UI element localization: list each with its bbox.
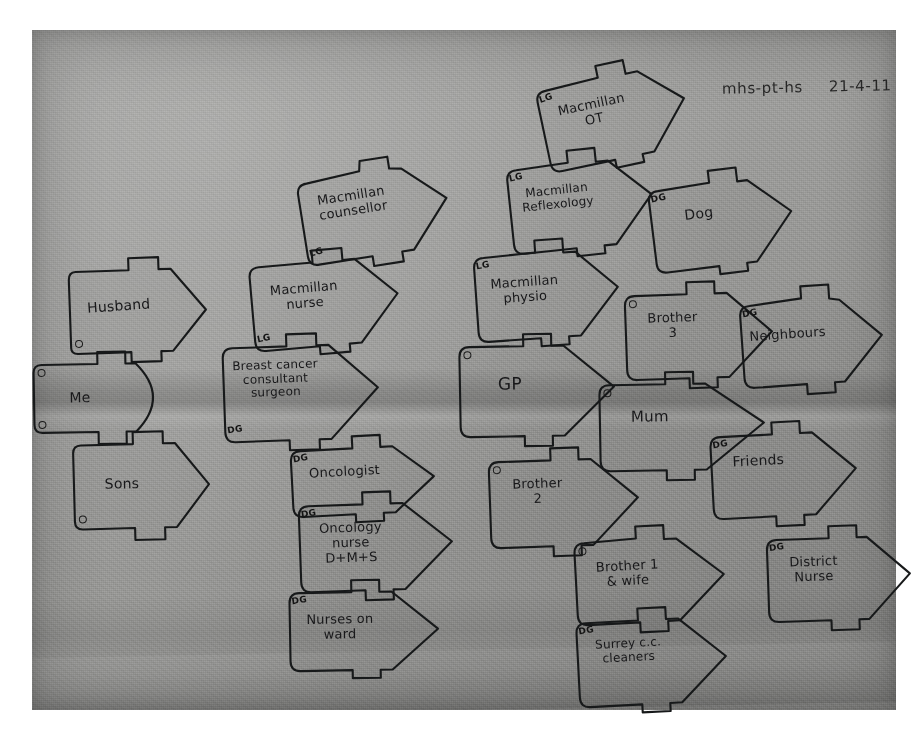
arrow-surrey-cc-cleaners[interactable]: DG Surrey c.c. cleaners bbox=[563, 602, 734, 719]
badge-code: DG bbox=[291, 594, 308, 606]
arrow-friends[interactable]: DG Friends bbox=[697, 416, 864, 532]
arrow-district-nurse[interactable]: DG District Nurse bbox=[754, 521, 918, 635]
arrow-dog[interactable]: DG Dog bbox=[632, 159, 804, 286]
header-code: mhs-pt-hs bbox=[722, 78, 803, 98]
marker-dot bbox=[603, 389, 611, 397]
arrow-neighbours[interactable]: DG Neighbours bbox=[724, 279, 891, 402]
marker-dot-top bbox=[37, 369, 45, 377]
scene: mhs-pt-hs21-4-11 Husband Me Sons bbox=[0, 0, 921, 752]
header-annotation: mhs-pt-hs21-4-11 bbox=[722, 76, 892, 98]
arrow-sons[interactable]: Sons bbox=[61, 426, 214, 545]
header-date: 21-4-11 bbox=[829, 76, 892, 95]
arrow-nurses-on-ward[interactable]: DG Nurses on ward bbox=[277, 579, 447, 682]
